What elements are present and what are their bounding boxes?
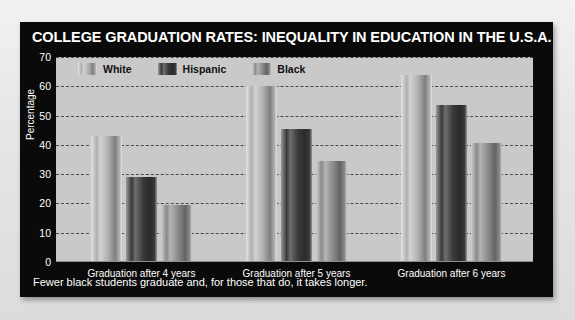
bar-white-group3[interactable] <box>401 75 432 262</box>
bar-white-group1[interactable] <box>91 136 122 262</box>
legend-label: Hispanic <box>183 63 227 75</box>
legend-item-black[interactable]: Black <box>252 63 305 75</box>
y-axis-tick: 10 <box>39 227 51 238</box>
y-axis-tick: 50 <box>39 110 51 121</box>
bar-black-group2[interactable] <box>316 161 347 262</box>
y-axis-tick: 30 <box>39 169 51 180</box>
plot-area: 010203040506070 WhiteHispanicBlack <box>56 57 533 262</box>
bar-black-group3[interactable] <box>471 143 502 262</box>
y-axis-tick: 40 <box>39 140 51 151</box>
bar-hispanic-group2[interactable] <box>281 129 312 262</box>
y-axis-label: Percentage <box>25 89 36 140</box>
category-label: Graduation after 6 years <box>398 268 506 279</box>
bar-white-group2[interactable] <box>246 86 277 262</box>
legend-swatch-icon <box>158 63 177 75</box>
y-axis-tick: 70 <box>39 52 51 63</box>
x-axis-line <box>56 261 533 262</box>
y-axis-tick: 20 <box>39 198 51 209</box>
gridline <box>56 86 533 87</box>
chart-legend: WhiteHispanicBlack <box>78 63 305 75</box>
gridline <box>56 57 533 58</box>
legend-label: White <box>103 63 132 75</box>
bar-hispanic-group3[interactable] <box>436 105 467 262</box>
bar-hispanic-group1[interactable] <box>126 177 157 262</box>
y-axis-tick: 0 <box>45 257 51 268</box>
chart-title: COLLEGE GRADUATION RATES: INEQUALITY IN … <box>32 29 544 45</box>
poster-page: COLLEGE GRADUATION RATES: INEQUALITY IN … <box>0 0 575 320</box>
y-axis-tick: 60 <box>39 81 51 92</box>
chart-caption: Fewer black students graduate and, for t… <box>33 276 367 288</box>
legend-swatch-icon <box>252 63 271 75</box>
legend-swatch-icon <box>78 63 97 75</box>
legend-item-white[interactable]: White <box>78 63 132 75</box>
bar-black-group1[interactable] <box>161 205 192 262</box>
plot-inner <box>56 57 533 262</box>
legend-label: Black <box>277 63 305 75</box>
chart-panel: COLLEGE GRADUATION RATES: INEQUALITY IN … <box>20 22 553 297</box>
legend-item-hispanic[interactable]: Hispanic <box>158 63 227 75</box>
